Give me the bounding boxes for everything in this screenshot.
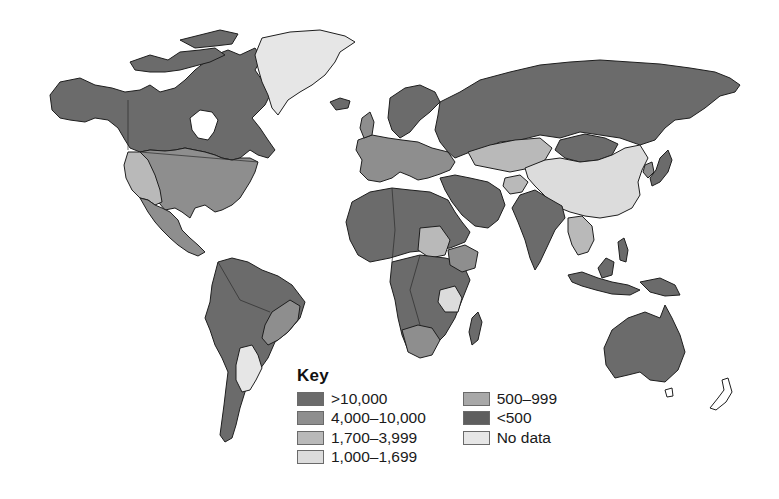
legend-item-4000-10000: 4,000–10,000 — [297, 409, 463, 429]
legend-item-no-data: No data — [463, 428, 557, 448]
legend: Key >10,000 4,000–10,000 1,700–3,999 1,0… — [297, 366, 557, 467]
region-new-guinea — [640, 278, 680, 296]
region-madagascar — [469, 312, 482, 345]
region-borneo — [598, 258, 614, 278]
legend-swatch — [463, 431, 490, 445]
legend-title: Key — [297, 366, 557, 386]
legend-label: >10,000 — [331, 390, 387, 408]
region-afghanistan — [503, 175, 528, 194]
region-new-zealand — [710, 378, 732, 410]
legend-label: 1,700–3,999 — [331, 429, 417, 447]
legend-label: No data — [497, 429, 551, 447]
legend-swatch — [463, 411, 490, 425]
legend-swatch — [297, 450, 324, 464]
region-philippines — [618, 238, 628, 262]
legend-label: 1,000–1,699 — [331, 448, 417, 466]
legend-item-lt-500: <500 — [463, 409, 557, 429]
region-uk — [360, 112, 374, 138]
region-tasmania — [665, 388, 673, 397]
legend-label: 4,000–10,000 — [331, 409, 426, 427]
legend-swatch — [463, 392, 490, 406]
legend-item-1000-1699: 1,000–1,699 — [297, 448, 463, 468]
region-scandinavia — [388, 85, 440, 138]
legend-item-500-999: 500–999 — [463, 389, 557, 409]
region-australia — [604, 305, 685, 382]
legend-item-1700-3999: 1,700–3,999 — [297, 428, 463, 448]
region-indochina — [568, 216, 594, 255]
legend-swatch — [297, 392, 324, 406]
region-arctic-islands-2 — [180, 30, 238, 48]
legend-label: 500–999 — [497, 390, 557, 408]
legend-swatch — [297, 431, 324, 445]
legend-swatch — [297, 411, 324, 425]
region-iceland — [330, 98, 350, 110]
legend-item-gt-10000: >10,000 — [297, 389, 463, 409]
legend-label: <500 — [497, 409, 532, 427]
